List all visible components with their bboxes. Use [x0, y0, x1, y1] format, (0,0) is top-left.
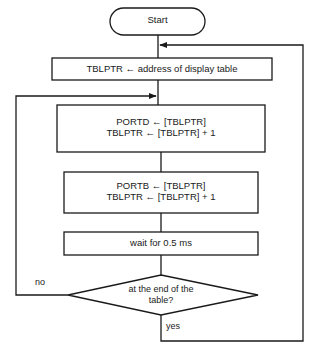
node-init-tblptr-shape [52, 58, 272, 80]
flowchart-canvas: Start TBLPTR ← address of display table … [0, 0, 321, 350]
node-start-shape [110, 8, 205, 35]
node-write-portb-shape [64, 172, 258, 213]
edge-label-yes: yes [166, 321, 180, 331]
node-end-of-table-shape [68, 275, 258, 315]
flowchart-graphics [0, 0, 321, 350]
node-write-portd-shape [57, 105, 265, 152]
node-wait-shape [64, 232, 258, 255]
edge-label-no: no [35, 277, 45, 287]
